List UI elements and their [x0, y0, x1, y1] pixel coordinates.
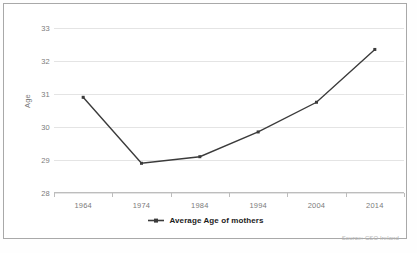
y-tick-label-30: 30 [10, 123, 50, 132]
legend-label: Average Age of mothers [169, 216, 263, 225]
y-tick-label-31: 31 [10, 90, 50, 99]
x-tick-label-1984: 1984 [178, 201, 222, 210]
x-tick-mark [404, 193, 405, 197]
x-tick-mark [229, 193, 230, 197]
data-point-2014 [373, 48, 376, 51]
series-average-age-of-mothers [54, 28, 404, 193]
x-tick-label-1974: 1974 [120, 201, 164, 210]
series-line [83, 49, 375, 163]
data-point-1994 [257, 130, 260, 133]
x-tick-mark [54, 193, 55, 197]
x-tick-label-2004: 2004 [295, 201, 339, 210]
source-note: Source: CSO Ireland [342, 235, 399, 241]
plot-area: 282930313233 196419741984199420042014 [54, 28, 404, 193]
data-point-1964 [82, 96, 85, 99]
x-tick-mark [112, 193, 113, 197]
x-tick-mark [287, 193, 288, 197]
y-tick-label-33: 33 [10, 24, 50, 33]
x-tick-mark [171, 193, 172, 197]
bottom-caption [2, 243, 414, 253]
data-point-1974 [140, 162, 143, 165]
chart-legend: Average Age of mothers [4, 216, 408, 225]
scanned-page: Age 282930313233 19641974198419942004201… [0, 0, 417, 253]
x-tick-label-2014: 2014 [353, 201, 397, 210]
x-tick-label-1964: 1964 [61, 201, 105, 210]
series-markers [82, 48, 377, 165]
y-tick-label-32: 32 [10, 57, 50, 66]
y-tick-label-28: 28 [10, 189, 50, 198]
legend-line-marker-icon [148, 216, 164, 225]
data-point-2004 [315, 101, 318, 104]
chart-frame: Age 282930313233 19641974198419942004201… [3, 3, 407, 239]
x-tick-mark [346, 193, 347, 197]
data-point-1984 [198, 155, 201, 158]
y-tick-label-29: 29 [10, 156, 50, 165]
x-tick-label-1994: 1994 [236, 201, 280, 210]
